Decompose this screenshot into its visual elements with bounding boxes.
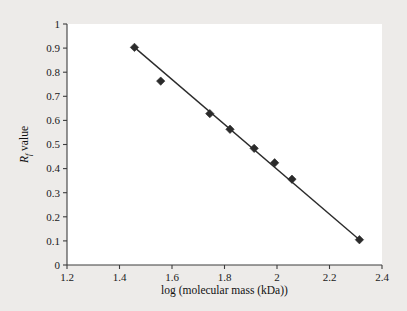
data-point	[250, 144, 258, 152]
y-tick-label: 0.5	[46, 138, 60, 150]
y-tick-label: 0.4	[46, 162, 60, 174]
data-series	[130, 43, 363, 244]
svg-text:Rf value: Rf value	[18, 126, 33, 164]
y-tick-label: 0.7	[46, 90, 60, 102]
data-point	[270, 159, 278, 167]
x-tick-label: 1.8	[218, 271, 232, 283]
fit-line	[134, 47, 359, 239]
chart-svg: 00.10.20.30.40.50.60.70.80.91 1.21.41.61…	[0, 0, 407, 311]
y-axis: 00.10.20.30.40.50.60.70.80.91	[46, 18, 67, 271]
data-point	[288, 175, 296, 183]
chart-figure: 00.10.20.30.40.50.60.70.80.91 1.21.41.61…	[0, 0, 407, 311]
y-axis-title-rest: value	[18, 126, 30, 154]
y-tick-label: 0.3	[46, 187, 60, 199]
x-tick-label: 2.2	[323, 271, 337, 283]
x-tick-label: 1.6	[165, 271, 179, 283]
x-tick-label: 1.4	[113, 271, 127, 283]
data-point	[206, 109, 214, 117]
y-tick-label: 0.1	[46, 235, 60, 247]
x-axis-title: log (molecular mass (kDa))	[161, 284, 288, 297]
y-axis-title: Rf value	[18, 126, 33, 164]
y-tick-label: 0.8	[46, 66, 60, 78]
y-tick-label: 0	[55, 259, 61, 271]
x-axis: 1.21.41.61.822.22.4	[60, 265, 389, 283]
y-axis-title-base: R	[18, 156, 30, 164]
x-tick-label: 2	[274, 271, 280, 283]
y-tick-label: 0.2	[46, 211, 60, 223]
y-tick-label: 1	[55, 18, 61, 30]
y-tick-label: 0.9	[46, 42, 60, 54]
y-tick-label: 0.6	[46, 114, 60, 126]
x-tick-label: 1.2	[60, 271, 74, 283]
x-tick-label: 2.4	[375, 271, 389, 283]
data-point	[157, 77, 165, 85]
